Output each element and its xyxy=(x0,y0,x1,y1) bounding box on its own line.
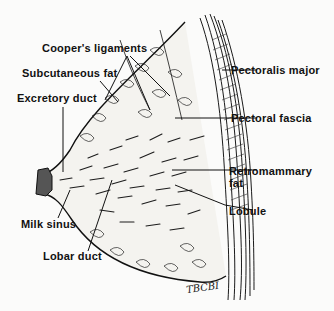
label-pectoral-fascia: Pectoral fascia xyxy=(231,112,312,124)
label-retromammary-line2: fat xyxy=(229,177,312,189)
label-retromammary-line1: Retromammary xyxy=(229,165,312,177)
breast-anatomy-diagram: Cooper's ligaments Subcutaneous fat Excr… xyxy=(0,0,334,311)
label-retromammary-fat: Retromammary fat xyxy=(229,165,312,189)
label-excretory-duct: Excretory duct xyxy=(17,92,97,104)
label-coopers-ligaments: Cooper's ligaments xyxy=(42,42,147,54)
breast-outline xyxy=(38,22,226,282)
label-lobar-duct: Lobar duct xyxy=(43,250,102,262)
label-milk-sinus: Milk sinus xyxy=(21,218,76,230)
nipple xyxy=(36,168,52,196)
label-subcutaneous-fat: Subcutaneous fat xyxy=(22,67,118,79)
label-pectoralis-major: Pectoralis major xyxy=(231,64,320,76)
label-lobule: Lobule xyxy=(229,205,266,217)
